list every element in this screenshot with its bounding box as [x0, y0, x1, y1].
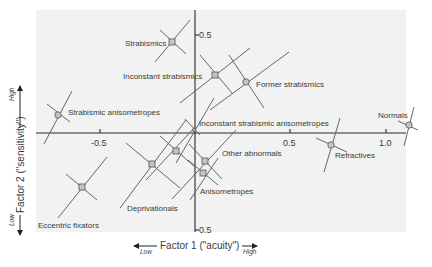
marker-unlabeled — [173, 148, 179, 154]
label-eccentric-fixators: Eccentric fixators — [38, 221, 99, 230]
x-tick-05: 0.5 — [283, 138, 296, 148]
label-deprivationals: Deprivationals — [127, 204, 178, 213]
x-low-label: Low — [140, 248, 153, 255]
y-tick-top: 0.5 — [199, 30, 212, 40]
x-axis-title: Factor 1 ("acuity") Low High — [134, 240, 257, 256]
marker-refractives — [328, 142, 334, 148]
label-normals: Normals — [378, 111, 408, 120]
y-axis-label: Factor 2 ("sensitivity") — [15, 116, 26, 213]
marker-former-strabismics — [243, 79, 249, 85]
marker-inconstant-strabismics — [212, 72, 218, 78]
label-other-abnormals: Other abnormals — [222, 149, 282, 158]
label-former-strabismics: Former strabismics — [256, 80, 324, 89]
y-low-label: Low — [8, 213, 15, 226]
y-axis-title: Factor 2 ("sensitivity") High Low — [8, 86, 26, 235]
label-strabismic-anisometropes: Strabismic anisometropes — [68, 108, 160, 117]
marker-anisometropes — [200, 170, 206, 176]
label-anisometropes: Anisometropes — [200, 187, 253, 196]
factor-scatter-chart: -0.5 0.5 1.0 0.5 0.5 — [0, 0, 432, 267]
marker-inconstant-strabismic-anisometropes — [192, 128, 195, 131]
label-strabismics: Strabismics — [125, 39, 166, 48]
label-inconstant-strabismics: Inconstant strabismics — [123, 72, 202, 81]
y-high-label: High — [8, 87, 16, 101]
marker-normals — [406, 122, 412, 128]
label-inconstant-strabismic-anisometropes: Inconstant strabismic anisometropes — [199, 119, 329, 128]
x-tick-neg05: -0.5 — [91, 138, 107, 148]
x-tick-10: 1.0 — [379, 138, 392, 148]
label-refractives: Refractives — [335, 151, 375, 160]
x-axis-label: Factor 1 ("acuity") — [160, 240, 239, 251]
marker-deprivationals — [149, 161, 155, 167]
marker-strabismics — [169, 39, 175, 45]
y-tick-bottom: 0.5 — [199, 225, 212, 235]
marker-other-abnormals — [202, 158, 208, 164]
marker-eccentric-fixators — [79, 184, 85, 190]
x-high-label: High — [243, 248, 257, 256]
marker-strabismic-anisometropes — [55, 112, 61, 118]
